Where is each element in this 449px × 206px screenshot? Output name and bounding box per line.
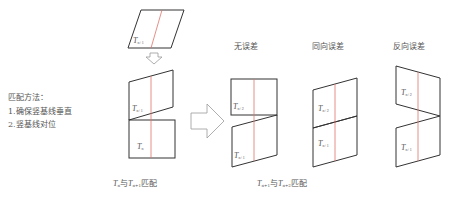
tile-label-mid-upper: Tn+1 — [132, 105, 143, 113]
tile-label-same-lower: Tn+1 — [318, 140, 329, 148]
tile-stack-same-error — [313, 78, 357, 167]
tile-stack-left — [129, 70, 175, 158]
tile-label-mid-lower: Tn — [137, 143, 143, 151]
method-step-1: 1.确保竖基线垂直 — [8, 108, 72, 116]
caption-left: Tn与Tn+1匹配 — [113, 180, 157, 188]
method-title: 匹配方法： — [8, 94, 48, 102]
tile-label-rev-lower: Tn+1 — [401, 144, 412, 152]
heading-reverse-error: 反向误差 — [393, 43, 425, 51]
tile-label-rev-upper: Tn+2 — [401, 89, 412, 97]
tile-label-noerr-lower: Tn+1 — [234, 152, 245, 160]
tile-label-same-upper: Tn+2 — [318, 105, 329, 113]
tile-label-top: Tn+1 — [133, 37, 144, 45]
down-arrow-icon — [146, 53, 162, 64]
heading-no-error: 无误差 — [234, 43, 258, 51]
caption-right: Tn+1与Tn+2匹配 — [257, 180, 307, 188]
right-arrow-icon — [191, 104, 224, 138]
method-step-2: 2.竖基线对位 — [8, 121, 56, 129]
tile-label-noerr-upper: Tn+2 — [233, 103, 244, 111]
diagram-canvas — [0, 0, 449, 206]
heading-same-error: 同向误差 — [312, 43, 344, 51]
